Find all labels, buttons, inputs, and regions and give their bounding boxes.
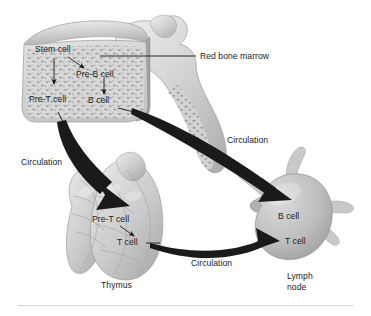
label-lymph-node-line1: Lymph xyxy=(287,271,313,281)
label-b-cell-marrow: B cell xyxy=(88,95,109,105)
label-t-cell-thymus: T cell xyxy=(117,237,138,247)
footer-divider xyxy=(18,305,354,306)
label-stem-cell: Stem cell xyxy=(35,44,71,54)
label-red-bone-marrow: Red bone marrow xyxy=(200,51,269,61)
label-b-cell-node: B cell xyxy=(278,211,299,221)
label-t-cell-node: T cell xyxy=(285,236,306,246)
label-pre-t-cell-marrow: Pre-T cell xyxy=(29,94,66,104)
label-circulation-marrow-to-thymus: Circulation xyxy=(21,157,62,167)
label-circulation-thymus-to-node: Circulation xyxy=(191,258,232,268)
label-thymus: Thymus xyxy=(101,280,132,290)
label-lymph-node-line2: node xyxy=(287,282,306,292)
lymphocyte-circulation-figure: Stem cell Pre-B cell Pre-T cell B cell R… xyxy=(0,0,371,316)
circulation-arrow-thymus-to-node xyxy=(150,228,280,258)
label-pre-b-cell: Pre-B cell xyxy=(76,69,114,79)
label-circulation-marrow-to-node: Circulation xyxy=(227,135,268,145)
label-pre-t-cell-thymus: Pre-T cell xyxy=(92,214,129,224)
